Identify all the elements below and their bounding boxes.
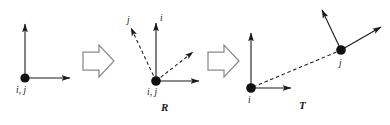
- label-panel1-node: i, j: [16, 86, 26, 96]
- vector-translation-link: [253, 51, 339, 87]
- node-point: [151, 76, 161, 86]
- block-arrow-1: [83, 45, 114, 77]
- node-point: [20, 73, 29, 82]
- vector-rotated-j-axis: [131, 28, 156, 81]
- label-panel2-vector-j: j: [127, 16, 130, 26]
- vector-rotated-i-axis: [156, 52, 193, 81]
- label-panel3-caption: T: [299, 100, 306, 111]
- vector-j-vertical-axis: [322, 10, 341, 50]
- panel-translation: [246, 10, 381, 93]
- label-panel2-caption: R: [161, 102, 168, 113]
- block-arrow-2: [208, 45, 239, 77]
- diagram-vectors: [0, 0, 390, 125]
- panel-initial: [20, 24, 70, 83]
- figure-canvas: i, j j i i, j R i j T: [0, 0, 390, 125]
- label-panel3-node-j: j: [339, 59, 342, 69]
- node-point-i: [246, 83, 256, 93]
- vector-j-horizontal-axis: [341, 27, 381, 50]
- label-panel2-node: i, j: [147, 88, 157, 98]
- label-panel3-node-i: i: [248, 96, 251, 106]
- node-point-j: [336, 45, 346, 55]
- label-panel2-vector-i: i: [160, 14, 163, 24]
- panel-rotation: [131, 23, 199, 86]
